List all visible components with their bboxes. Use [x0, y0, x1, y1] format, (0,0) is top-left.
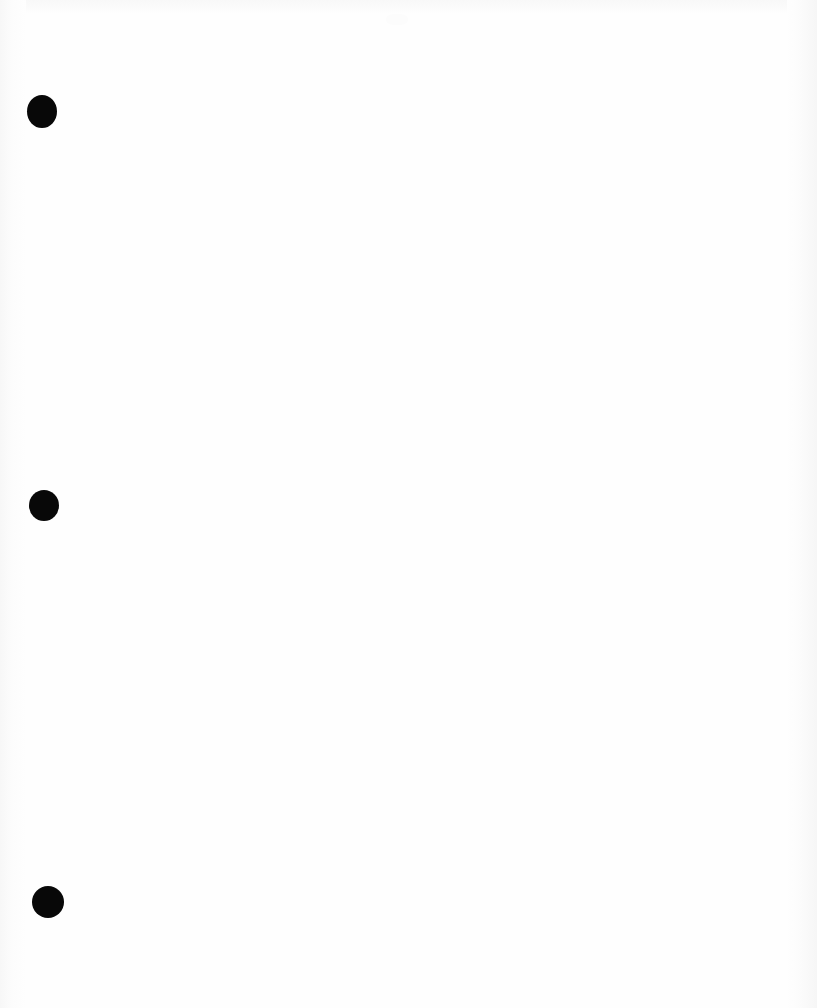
faint-smudge-artifact: [386, 14, 408, 25]
page-content-area: [0, 0, 817, 1008]
margin-dot-top: [27, 95, 57, 128]
margin-dot-bottom: [32, 886, 64, 918]
scanned-page: [0, 0, 817, 1008]
margin-dot-middle: [29, 490, 59, 521]
